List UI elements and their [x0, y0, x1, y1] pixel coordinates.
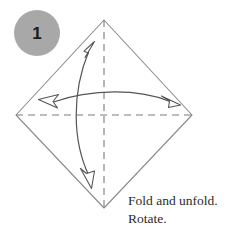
caption-line-1: Fold and unfold. [128, 193, 218, 208]
step-number-label: 1 [32, 24, 41, 43]
caption-line-2: Rotate. [128, 211, 167, 226]
origami-diagram-canvas: 1 Fold and unfold. Rotate. [0, 0, 234, 242]
origami-step-figure: 1 Fold and unfold. Rotate. [0, 0, 234, 242]
